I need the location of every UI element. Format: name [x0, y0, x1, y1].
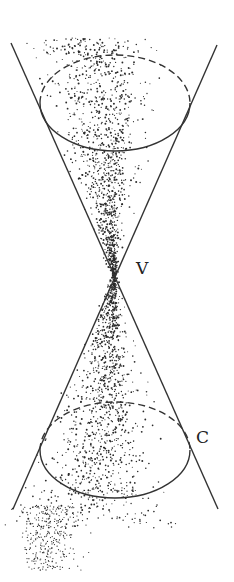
curve-label: C	[196, 427, 209, 447]
bottom-ellipse-back-dashed	[40, 402, 190, 450]
vertex-label: V	[135, 258, 149, 278]
stipple-shading	[5, 37, 176, 570]
double-cone-diagram: V C	[0, 0, 234, 582]
top-ellipse-back-dashed	[40, 55, 190, 103]
